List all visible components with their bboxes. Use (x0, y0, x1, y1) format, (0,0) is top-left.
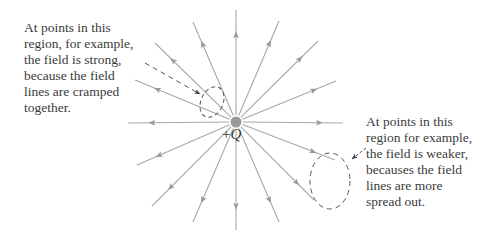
caption-line: spread out. (366, 194, 472, 210)
weak-region-pointer (352, 148, 366, 159)
caption-line: region, for example, (24, 36, 133, 52)
weak-region-outline (310, 153, 350, 209)
caption-line: lines are more (366, 178, 472, 194)
caption-line: lines are cramped (24, 84, 133, 100)
caption-line: region for example, (366, 130, 472, 146)
field-line-w (128, 122, 229, 123)
field-line-ne (241, 41, 318, 117)
weak-field-caption: At points in this region for example, th… (366, 114, 472, 210)
strong-region-outline (195, 83, 228, 121)
caption-line: the field is strong, (24, 52, 133, 68)
charge-symbol: Q (230, 126, 241, 142)
field-line-wsw (137, 125, 230, 165)
field-line-sse (239, 128, 279, 222)
caption-line: becauses the field (366, 162, 472, 178)
caption-line: because the field (24, 68, 133, 84)
charge-label: +Q (222, 126, 241, 143)
strong-field-caption: At points in this region, for example, t… (24, 20, 133, 116)
field-line-nne (239, 21, 279, 116)
field-line-wnw (135, 80, 230, 119)
field-line-nnw (193, 22, 233, 116)
caption-line: At points in this (366, 114, 472, 130)
field-line-nw (155, 43, 231, 117)
field-line-ene (242, 81, 336, 119)
caption-line: together. (24, 100, 133, 116)
caption-line: the field is weaker, (366, 146, 472, 162)
field-line-sw (152, 127, 231, 206)
caption-line: At points in this (24, 20, 133, 36)
field-line-e (243, 122, 343, 123)
